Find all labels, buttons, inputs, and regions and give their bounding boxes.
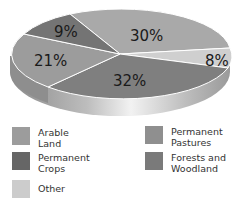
- legend-item-forests-woodland: Forests and Woodland: [145, 152, 226, 174]
- swatch: [145, 152, 163, 170]
- swatch: [12, 180, 30, 198]
- legend: Arable Land Permanent Pastures Permanent…: [0, 0, 239, 206]
- legend-item-permanent-crops: Permanent Crops: [12, 152, 90, 174]
- swatch: [12, 152, 30, 170]
- legend-item-other: Other: [12, 180, 65, 198]
- swatch: [12, 127, 30, 145]
- legend-item-permanent-pastures: Permanent Pastures: [145, 126, 223, 148]
- legend-item-arable-land: Arable Land: [12, 127, 69, 149]
- swatch: [145, 126, 163, 144]
